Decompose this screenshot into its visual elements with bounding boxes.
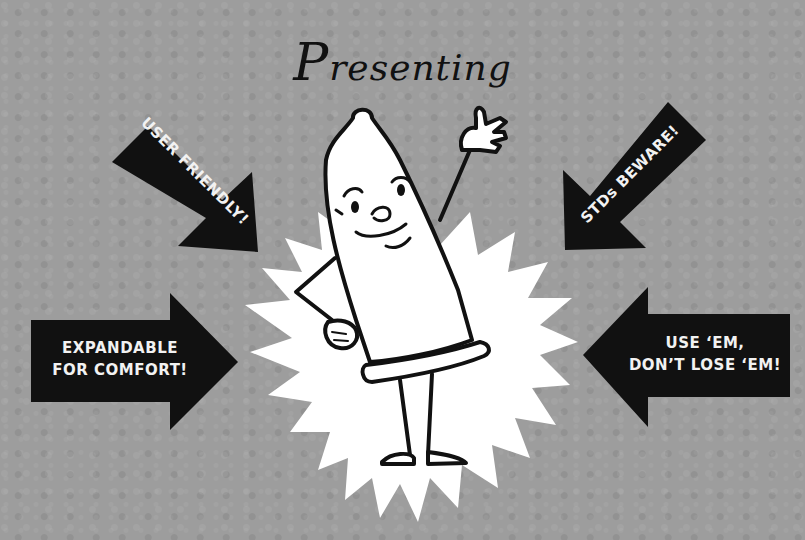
arrow-label-line: EXPANDABLE [40, 337, 200, 359]
arrow-label-line: USE ‘EM, [615, 332, 795, 354]
arrow-label-use-em: USE ‘EM, DON’T LOSE ‘EM! [615, 332, 795, 376]
arrow-label-line: DON’T LOSE ‘EM! [615, 354, 795, 376]
arrow-label-expandable: EXPANDABLE FOR COMFORT! [40, 337, 200, 381]
poster-artwork [0, 0, 805, 540]
arrow-label-line: FOR COMFORT! [40, 359, 200, 381]
